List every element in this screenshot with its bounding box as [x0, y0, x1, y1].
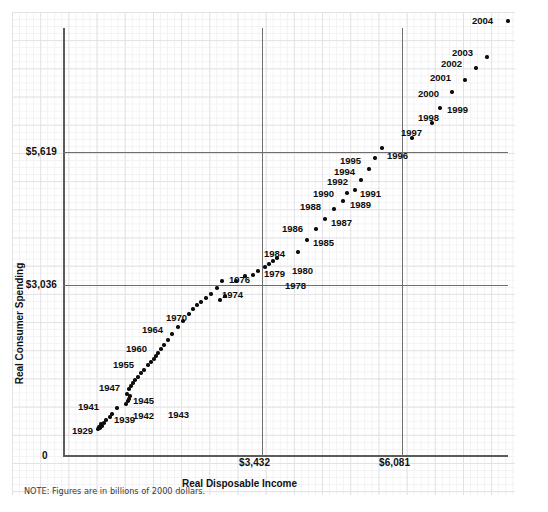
data-point — [125, 392, 128, 395]
data-point — [108, 415, 111, 418]
data-point-label: 1942 — [133, 411, 154, 421]
data-point-label: 1964 — [142, 325, 163, 335]
data-point — [323, 217, 326, 220]
data-point-label: 1980 — [292, 266, 313, 276]
data-point — [124, 402, 127, 405]
data-point — [267, 262, 270, 265]
data-point — [195, 303, 198, 306]
y-axis-line — [63, 28, 65, 456]
data-point — [110, 412, 113, 415]
data-point-label: 1960 — [126, 344, 147, 354]
data-point-label: 2004 — [472, 16, 493, 26]
data-point — [506, 19, 509, 22]
data-point — [251, 273, 254, 276]
data-point-label: 1994 — [334, 167, 355, 177]
data-point — [170, 332, 173, 335]
data-point-label: 1987 — [331, 218, 352, 228]
data-point — [136, 375, 139, 378]
data-point-label: 1989 — [350, 200, 371, 210]
data-point — [204, 296, 207, 299]
data-point — [353, 188, 356, 191]
data-point — [139, 371, 142, 374]
data-point — [187, 312, 190, 315]
data-point — [243, 274, 246, 277]
data-point — [380, 146, 383, 149]
data-point-label: 1929 — [72, 426, 93, 436]
data-point — [373, 156, 376, 159]
data-point-label: 1970 — [166, 313, 187, 323]
data-point-label: 1990 — [313, 189, 334, 199]
data-point — [154, 354, 157, 357]
data-point-label: 2001 — [430, 73, 451, 83]
data-point-label: 1997 — [401, 128, 422, 138]
data-point-label: 1996 — [387, 151, 408, 161]
data-point — [127, 387, 130, 390]
data-point — [152, 357, 155, 360]
reference-line-x-6081 — [402, 28, 403, 456]
data-point-label: 1995 — [340, 156, 361, 166]
data-point — [131, 381, 134, 384]
figure-note: NOTE: Figures are in billions of 2000 do… — [24, 486, 205, 496]
data-point-label: 1986 — [282, 224, 303, 234]
data-point-label: 1999 — [447, 105, 468, 115]
data-point — [191, 307, 194, 310]
data-point-label: 1939 — [114, 415, 135, 425]
data-point-label: 1988 — [300, 202, 321, 212]
data-point — [341, 199, 344, 202]
data-point — [314, 227, 317, 230]
data-point — [450, 90, 453, 93]
data-point-label: 1985 — [313, 238, 334, 248]
data-point-label: 1955 — [113, 360, 134, 370]
data-point — [162, 343, 165, 346]
data-point — [485, 55, 488, 58]
data-point — [104, 418, 107, 421]
data-point-label: 1978 — [285, 281, 306, 291]
data-point — [305, 238, 308, 241]
data-point-label: 1984 — [264, 249, 285, 259]
data-point — [367, 167, 370, 170]
data-point — [129, 384, 132, 387]
data-point — [156, 351, 159, 354]
data-point-label: 1976 — [229, 275, 250, 285]
data-point — [209, 292, 212, 295]
data-point — [345, 191, 348, 194]
data-point — [146, 363, 149, 366]
data-point-label: 1979 — [264, 269, 285, 279]
data-point — [100, 424, 103, 427]
y-axis-title: Real Consumer Spending — [14, 249, 25, 399]
x-tick-label-6081: $6,081 — [379, 457, 410, 468]
data-point-label: 2000 — [418, 89, 439, 99]
data-point — [199, 300, 202, 303]
chart-page: $5,619 $3,036 0 $3,432 $6,081 Real Consu… — [0, 0, 548, 512]
scatter-plot: $5,619 $3,036 0 $3,432 $6,081 Real Consu… — [0, 0, 548, 512]
data-point — [102, 421, 105, 424]
data-point — [133, 378, 136, 381]
y-tick-label-3036: $3,036 — [0, 279, 57, 290]
data-point — [359, 178, 362, 181]
reference-line-x-3432 — [262, 28, 263, 456]
data-point — [332, 207, 335, 210]
data-point-label: 1998 — [418, 113, 439, 123]
data-point — [128, 394, 131, 397]
y-tick-label-5619: $5,619 — [0, 146, 57, 157]
y-origin-label: 0 — [42, 450, 48, 461]
data-point — [438, 106, 441, 109]
data-point-label: 1991 — [360, 189, 381, 199]
data-point — [215, 286, 218, 289]
data-point-label: 1943 — [168, 410, 189, 420]
data-point-label: 1945 — [133, 396, 154, 406]
data-point — [296, 250, 299, 253]
data-point — [256, 269, 259, 272]
data-point-label: 2002 — [441, 59, 462, 69]
data-point — [142, 368, 145, 371]
data-point-label: 1992 — [327, 177, 348, 187]
data-point-label: 1941 — [78, 402, 99, 412]
data-point — [474, 66, 477, 69]
data-point — [223, 294, 226, 297]
data-point — [463, 78, 466, 81]
data-point — [127, 397, 130, 400]
data-point — [115, 406, 118, 409]
x-axis-line — [63, 455, 508, 457]
data-point — [159, 347, 162, 350]
x-tick-label-3432: $3,432 — [239, 457, 270, 468]
